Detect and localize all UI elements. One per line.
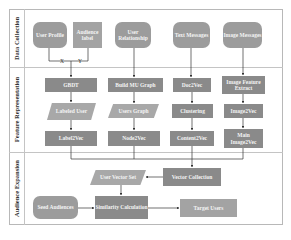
node-label: Labeled User [56,108,87,115]
node-label: Image Messages [223,32,261,39]
node-build-mu-graph: Build MU Graph [108,78,163,92]
node-user-vector-set: User Vector Set [90,170,146,185]
node-user-relationship: User Relationship [115,22,151,48]
node-label: Image Feature Extract [222,79,265,92]
node-label: Vector Collection [172,174,212,181]
node-gbdt: GBDT [45,78,97,92]
node-label: Doc2Vec [182,82,202,89]
node-label: Users Graph [118,108,148,115]
node-label: Node2Vec [122,135,145,142]
node-vector-collection: Vector Collection [163,168,221,186]
node-label: Similarity Calculation [95,204,147,211]
node-label: User Vector Set [100,174,136,181]
node-doc2vec: Doc2Vec [173,78,211,92]
node-node2vec: Node2Vec [108,131,160,146]
node-label: GBDT [63,82,79,89]
join-label-y: Y [78,58,82,64]
node-audience-label: Audience label [73,22,102,48]
node-label: Label2Vec [59,135,84,142]
node-content2vec: Content2Vec [170,131,214,146]
node-label2vec: Label2Vec [45,131,97,146]
node-label: Seed Audiences [37,204,73,211]
node-label: Content2Vec [177,135,207,142]
node-label: Target Users [194,205,224,212]
node-users-graph: Users Graph [108,104,159,118]
node-label: Build MU Graph [115,82,155,89]
node-label: User Relationship [115,29,151,42]
node-label: User Profile [36,32,64,39]
node-main-image2vec: Main Image2Vec [224,129,263,148]
node-label: Audience label [73,29,102,42]
node-seed-audiences: Seed Audiences [33,196,78,219]
node-label: Text Messages [175,32,209,39]
node-user-profile: User Profile [33,22,67,48]
node-label: Clustering [180,108,205,115]
node-image-feature-extract: Image Feature Extract [222,76,265,94]
node-similarity-calculation: Similarity Calculation [95,196,148,219]
node-image-messages: Image Messages [223,22,262,48]
node-labeled-user: Labeled User [47,103,96,120]
node-target-users: Target Users [180,199,237,217]
node-image2vec: Image2Vec [224,104,263,118]
node-clustering: Clustering [172,104,213,118]
node-label: Image2Vec [231,108,257,115]
node-text-messages: Text Messages [173,22,210,48]
node-label: Main Image2Vec [224,132,263,145]
join-label-x: X [60,58,64,64]
